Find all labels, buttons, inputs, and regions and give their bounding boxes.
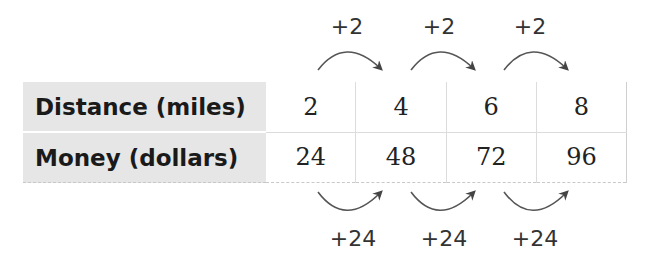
bottom-step-label-1: +24 xyxy=(313,226,393,252)
cell-distance-4: 8 xyxy=(536,82,626,132)
bottom-arrow-3 xyxy=(504,192,566,210)
top-arrow-2 xyxy=(411,52,473,70)
table-row-distance: Distance (miles) 2 4 6 8 xyxy=(23,82,627,132)
cell-money-3: 72 xyxy=(446,132,536,183)
cell-money-2: 48 xyxy=(356,132,446,183)
bottom-arrow-2 xyxy=(411,192,473,210)
row-header-money: Money (dollars) xyxy=(23,132,266,183)
bottom-step-label-3: +24 xyxy=(495,226,575,252)
cell-distance-3: 6 xyxy=(446,82,536,132)
top-arrow-1 xyxy=(318,52,380,70)
row-header-distance: Distance (miles) xyxy=(23,82,266,132)
cell-distance-1: 2 xyxy=(266,82,356,132)
bottom-arrow-1 xyxy=(318,192,380,210)
bottom-step-label-2: +24 xyxy=(404,226,484,252)
cell-distance-2: 4 xyxy=(356,82,446,132)
cell-money-1: 24 xyxy=(266,132,356,183)
table-row-money: Money (dollars) 24 48 72 96 xyxy=(23,132,627,183)
cell-money-4: 96 xyxy=(536,132,626,183)
ratio-table: Distance (miles) 2 4 6 8 Money (dollars)… xyxy=(23,82,627,183)
top-arrow-3 xyxy=(504,52,566,70)
